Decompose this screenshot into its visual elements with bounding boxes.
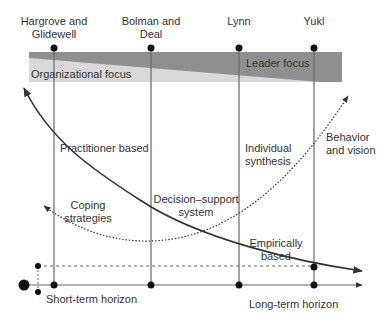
label-line: Empirically	[243, 237, 309, 250]
axis-dots	[19, 263, 318, 295]
author-name-line1: Hargrove and	[0, 15, 108, 28]
yukl-curve-dot	[311, 264, 318, 271]
label-line: and vision	[326, 144, 376, 157]
practitioner-based-label: Practitioner based	[60, 142, 149, 155]
coping-strategies-label: Coping strategies	[58, 199, 118, 225]
individual-synthesis-label: Individual synthesis	[245, 142, 291, 168]
label-line: synthesis	[245, 155, 291, 168]
yukl-dot	[311, 45, 318, 52]
label-line: system	[150, 206, 242, 219]
hargrove-axis-dot	[51, 282, 58, 289]
hargrove-dot	[51, 45, 58, 52]
dashed-top-dot	[35, 263, 41, 269]
author-name-line1: Bolman and	[101, 15, 201, 28]
label-line: strategies	[58, 212, 118, 225]
diagram-canvas	[0, 0, 389, 322]
decision-support-label: Decision–support system	[150, 193, 242, 219]
long-term-horizon-label: Long-term horizon	[249, 298, 338, 311]
author-label-lynn: Lynn	[209, 15, 269, 28]
empirically-based-label: Empirically based	[243, 237, 309, 263]
origin-dot	[19, 280, 30, 291]
dashed-bottom-dot	[35, 289, 41, 295]
bolman-dot	[148, 45, 155, 52]
leader-focus-label: Leader focus	[246, 57, 310, 70]
behavior-vision-label: Behavior and vision	[326, 131, 376, 157]
bolman-axis-dot	[148, 282, 155, 289]
author-label-hargrove: Hargrove and Glidewell	[0, 15, 108, 41]
short-term-horizon-label: Short-term horizon	[46, 293, 137, 306]
lynn-axis-dot	[236, 282, 243, 289]
label-line: Decision–support	[150, 193, 242, 206]
author-label-bolman: Bolman and Deal	[101, 15, 201, 41]
author-name-line2: Deal	[101, 28, 201, 41]
author-dots	[51, 45, 318, 52]
empirical-curve	[24, 88, 362, 271]
author-name-line2: Glidewell	[0, 28, 108, 41]
lynn-dot	[236, 45, 243, 52]
organizational-focus-label: Organizational focus	[31, 68, 131, 81]
label-line: Individual	[245, 142, 291, 155]
label-line: based	[243, 250, 309, 263]
yukl-axis-dot	[311, 282, 318, 289]
label-line: Coping	[58, 199, 118, 212]
author-label-yukl: Yukl	[284, 15, 344, 28]
label-line: Behavior	[326, 131, 376, 144]
